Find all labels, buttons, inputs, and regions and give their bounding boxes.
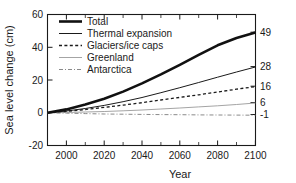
legend-label-greenland: Greenland [87,52,134,63]
y-axis-ticks [48,15,53,146]
y-tick-label-40: 40 [32,42,44,53]
chart-figure: 60 40 20 0 -20 2000 2020 2040 2060 2080 … [0,0,296,183]
right-axis-ticks [251,32,256,114]
series-glaciers-ice-caps [48,87,256,113]
legend-item-thermal-expansion[interactable]: Thermal expansion [59,28,172,39]
x-tick-label-2100: 2100 [244,150,267,161]
end-label-thermal-expansion: 28 [260,61,272,72]
end-label-greenland: 6 [260,97,266,108]
end-label-antarctica: -1 [260,109,269,120]
legend: Total Thermal expansion Glaciers/ice cap… [59,16,172,75]
y-tick-label-60: 60 [32,9,44,20]
legend-item-glaciers-ice-caps[interactable]: Glaciers/ice caps [59,40,163,51]
y-tick-label-minus20: -20 [29,140,44,151]
x-tick-label-2000: 2000 [55,150,78,161]
x-axis-title: Year [169,168,192,180]
sea-level-chart: 60 40 20 0 -20 2000 2020 2040 2060 2080 … [0,0,296,183]
y-tick-label-0: 0 [37,107,43,118]
legend-label-thermal-expansion: Thermal expansion [87,28,172,39]
legend-item-antarctica[interactable]: Antarctica [59,64,132,75]
end-label-total: 49 [260,27,272,38]
y-axis-title: Sea level change (cm) [3,25,15,134]
legend-label-glaciers-ice-caps: Glaciers/ice caps [87,40,163,51]
x-tick-label-2020: 2020 [93,150,116,161]
legend-label-total: Total [87,16,108,27]
y-tick-label-20: 20 [32,75,44,86]
legend-item-greenland[interactable]: Greenland [59,52,134,63]
x-tick-label-2040: 2040 [131,150,154,161]
end-label-glaciers-ice-caps: 16 [260,81,272,92]
x-tick-label-2060: 2060 [169,150,192,161]
legend-label-antarctica: Antarctica [87,64,132,75]
x-tick-label-2080: 2080 [206,150,229,161]
series-greenland [48,103,256,113]
series-antarctica [48,113,256,115]
